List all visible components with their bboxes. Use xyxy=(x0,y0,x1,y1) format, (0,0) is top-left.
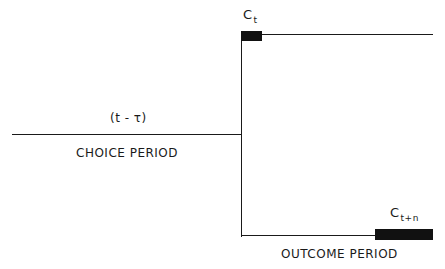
timeline-diagram: Ct Ct+n (t - τ) CHOICE PERIOD OUTCOME PE… xyxy=(0,0,445,269)
outcome-period-label: OUTCOME PERIOD xyxy=(281,247,398,261)
ctn-label: Ct+n xyxy=(390,205,419,220)
ct-outcome-block xyxy=(241,31,262,41)
ctn-label-main: C xyxy=(390,205,400,220)
ctn-outcome-block xyxy=(375,229,433,240)
branch-vertical-line xyxy=(241,33,242,237)
ct-label-main: C xyxy=(243,7,253,22)
ctn-label-sub: t+n xyxy=(401,213,419,223)
choice-time-label: (t - τ) xyxy=(110,111,147,125)
immediate-outcome-line xyxy=(241,34,433,35)
ct-label-sub: t xyxy=(254,15,258,25)
ct-label: Ct xyxy=(243,7,258,22)
choice-period-line xyxy=(12,134,242,135)
choice-period-label: CHOICE PERIOD xyxy=(76,146,178,160)
